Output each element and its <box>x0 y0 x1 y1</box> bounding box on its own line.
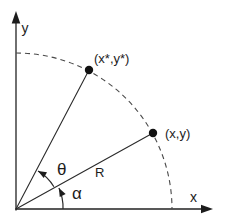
axes <box>12 11 213 213</box>
original-point-dot <box>149 129 157 137</box>
alpha-arc-arrowhead <box>56 186 66 197</box>
radius-label: R <box>95 165 104 180</box>
circle-arc <box>16 53 172 209</box>
theta-angle-arrow <box>36 168 54 187</box>
theta-label: θ <box>57 160 66 179</box>
rotation-diagram: y x (x*,y*) (x,y) θ α R <box>0 0 227 223</box>
y-axis-arrowhead <box>12 11 21 24</box>
diagram-svg: y x (x*,y*) (x,y) θ α R <box>0 0 227 223</box>
x-axis-label: x <box>190 189 197 205</box>
rotated-point-label: (x*,y*) <box>94 51 129 66</box>
rotated-point-dot <box>85 66 93 74</box>
alpha-angle-arrow <box>56 186 66 209</box>
original-point-label: (x,y) <box>165 126 190 141</box>
x-axis-arrowhead <box>201 205 213 214</box>
y-axis-label: y <box>22 20 29 36</box>
alpha-label: α <box>72 184 82 203</box>
